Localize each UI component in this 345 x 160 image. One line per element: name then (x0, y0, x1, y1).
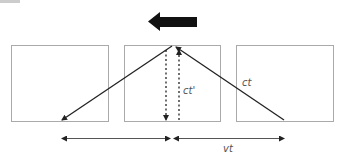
light-path-up (176, 47, 284, 120)
diagram-canvas (0, 0, 345, 160)
label-ct: ct (242, 78, 251, 88)
left-frame (12, 46, 109, 122)
label-vt: vt (223, 144, 233, 154)
motion-arrow-icon (148, 12, 197, 31)
middle-frame (125, 46, 221, 122)
label-ct-prime: ct' (183, 86, 195, 96)
light-path-down (62, 46, 172, 120)
